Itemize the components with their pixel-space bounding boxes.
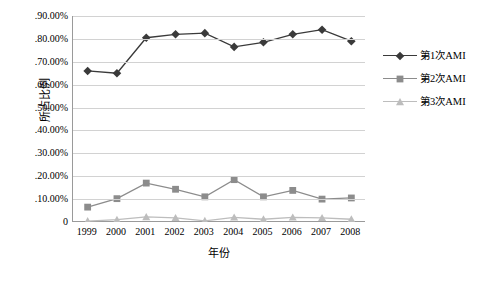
gridline — [73, 85, 365, 86]
data-point — [396, 98, 404, 105]
data-point — [397, 75, 404, 82]
gridline — [73, 108, 365, 109]
data-point — [348, 195, 355, 202]
y-tick-label: .10.00% — [4, 194, 68, 204]
chart-figure: 0.10.00%.20.00%.30.00%.40.00%.50.00%.60.… — [0, 0, 479, 281]
y-tick-label: .90.00% — [4, 11, 68, 21]
legend-marker — [383, 96, 417, 108]
data-point — [201, 29, 210, 38]
data-point — [143, 180, 150, 187]
data-point — [84, 204, 91, 211]
legend-marker — [383, 50, 417, 62]
legend: 第1次AMI第2次AMI第3次AMI — [383, 44, 475, 113]
gridline — [73, 62, 365, 63]
gridline — [73, 199, 365, 200]
y-tick-label: .30.00% — [4, 148, 68, 158]
data-point — [171, 30, 180, 39]
plot-area — [72, 16, 365, 222]
legend-marker — [383, 73, 417, 85]
data-point — [230, 43, 239, 52]
legend-item: 第1次AMI — [383, 44, 475, 67]
x-axis-tick-labels: 1999200020012002200320042005200620072008 — [72, 226, 365, 240]
y-tick-label: .80.00% — [4, 34, 68, 44]
data-point — [289, 187, 296, 194]
data-point — [318, 25, 327, 34]
gridline — [73, 39, 365, 40]
data-point — [396, 51, 405, 60]
x-tick-label: 2008 — [330, 226, 370, 238]
y-axis-title: 所占比例 — [36, 52, 52, 148]
data-point — [83, 67, 92, 76]
data-point — [231, 176, 238, 183]
gridline — [73, 176, 365, 177]
data-point — [172, 186, 179, 193]
data-point — [288, 30, 297, 39]
y-tick-label: .20.00% — [4, 171, 68, 181]
legend-item: 第2次AMI — [383, 67, 475, 90]
x-axis-title: 年份 — [72, 244, 365, 260]
y-axis-tick-labels: 0.10.00%.20.00%.30.00%.40.00%.50.00%.60.… — [0, 16, 68, 222]
series-line — [88, 30, 352, 73]
gridline — [73, 130, 365, 131]
legend-item: 第3次AMI — [383, 90, 475, 113]
legend-label: 第1次AMI — [417, 50, 466, 62]
legend-label: 第2次AMI — [417, 73, 466, 85]
gridline — [73, 16, 365, 17]
series-line — [88, 180, 352, 207]
gridline — [73, 153, 365, 154]
series-line — [88, 217, 352, 221]
y-tick-label: 0 — [4, 217, 68, 227]
legend-label: 第3次AMI — [417, 96, 466, 108]
series-canvas — [73, 16, 366, 222]
